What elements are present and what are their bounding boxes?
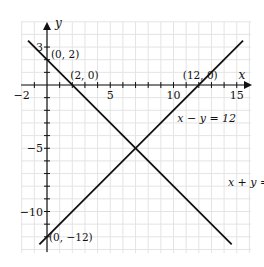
point-label: (12, 0) xyxy=(183,69,218,81)
equation-label: x + y = 2 xyxy=(228,176,264,189)
point-label: (0, −12) xyxy=(49,231,93,243)
y-tick-label: 3 xyxy=(36,41,43,54)
y-axis-arrow-icon xyxy=(43,22,51,30)
point-label: (0, 2) xyxy=(51,48,79,60)
x-tick-label: 10 xyxy=(167,89,181,102)
chart-canvas: −2510153−5−10xyx + y = 2x − y = 12(0, 2)… xyxy=(0,0,264,267)
x-axis-label: x xyxy=(239,68,246,82)
x-axis-arrow-icon xyxy=(244,81,252,89)
y-tick-label: −5 xyxy=(27,142,43,155)
y-axis-label: y xyxy=(54,16,62,30)
labels: −2510153−5−10xyx + y = 2x − y = 12(0, 2)… xyxy=(14,16,264,243)
point-label: (2, 0) xyxy=(70,69,98,81)
x-tick-label: −2 xyxy=(14,89,30,102)
y-tick-label: −10 xyxy=(20,206,43,219)
x-tick-label: 5 xyxy=(107,89,114,102)
equation-label: x − y = 12 xyxy=(177,112,236,125)
x-tick-label: 15 xyxy=(230,89,244,102)
